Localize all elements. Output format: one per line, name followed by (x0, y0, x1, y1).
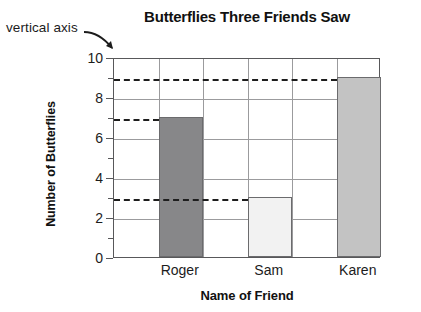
y-tick-label: 6 (77, 130, 103, 146)
y-tick-label: 0 (77, 250, 103, 266)
x-tick-label-sam: Sam (224, 262, 314, 278)
y-tick-major (106, 138, 113, 139)
y-tick-major (106, 178, 113, 179)
vertical-axis-annotation-label: vertical axis (6, 20, 78, 35)
dashed-guide-9 (114, 79, 337, 81)
y-tick-major (106, 98, 113, 99)
bar-sam (248, 197, 293, 257)
y-tick-label: 4 (77, 170, 103, 186)
x-tick-label-roger: Roger (135, 262, 225, 278)
plot-area (113, 58, 380, 258)
x-tick-label-karen: Karen (313, 262, 403, 278)
y-axis-title: Number of Butterflies (44, 84, 58, 244)
bar-roger (159, 117, 204, 257)
gridline-vertical (203, 59, 204, 257)
y-tick-label: 8 (77, 90, 103, 106)
y-tick-minor (108, 158, 113, 159)
chart-title: Butterflies Three Friends Saw (113, 8, 381, 25)
y-tick-label: 2 (77, 210, 103, 226)
gridline-vertical (292, 59, 293, 257)
y-tick-major (106, 218, 113, 219)
bar-chart-figure: vertical axis Butterflies Three Friends … (0, 0, 421, 312)
dashed-guide-3 (114, 199, 248, 201)
y-tick-minor (108, 78, 113, 79)
y-tick-major (106, 58, 113, 59)
y-tick-minor (108, 118, 113, 119)
bar-karen (337, 77, 382, 257)
x-axis-title: Name of Friend (113, 288, 381, 303)
y-tick-major (106, 258, 113, 259)
y-tick-label: 10 (77, 50, 103, 66)
y-tick-minor (108, 238, 113, 239)
dashed-guide-7 (114, 119, 159, 121)
y-tick-minor (108, 198, 113, 199)
